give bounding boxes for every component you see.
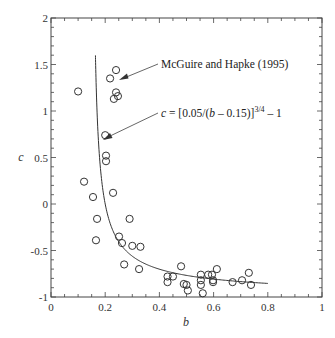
y-tick-label: -0.5 (31, 245, 49, 257)
data-point (121, 261, 128, 268)
formula-exponent: 3/4 (254, 105, 264, 114)
fit-curve (95, 55, 267, 283)
data-point (80, 178, 87, 185)
y-tick-label: 0 (43, 198, 49, 210)
data-point (197, 281, 204, 288)
data-point (129, 242, 136, 249)
arrowhead-mcguire (119, 74, 129, 81)
x-tick-label: 0.4 (153, 301, 167, 313)
data-point (164, 279, 171, 286)
x-tick-labels: 00.20.40.60.81 (48, 301, 325, 313)
y-tick-label: 1.5 (34, 59, 48, 71)
x-tick-label: 1 (319, 301, 325, 313)
data-point (245, 269, 252, 276)
arrowhead-formula (103, 133, 113, 140)
data-point (177, 263, 184, 270)
x-tick-label: 0.2 (98, 301, 112, 313)
x-axis-label: b (183, 315, 189, 329)
data-point (229, 279, 236, 286)
data-point (169, 273, 176, 280)
annotation-mcguire-label: McGuire and Hapke (1995) (161, 58, 289, 71)
data-point (135, 266, 142, 273)
data-point (89, 193, 96, 200)
x-tick-label: 0.8 (261, 301, 275, 313)
annotation-arrow-mcguire (124, 64, 158, 78)
y-tick-label: 0.5 (34, 152, 48, 164)
x-tick-label: 0 (48, 301, 54, 313)
formula-part3: – 1 (265, 107, 283, 119)
data-point (109, 189, 116, 196)
data-point (213, 266, 220, 273)
y-tick-labels: -1-0.500.511.52 (31, 12, 49, 303)
annotation-arrow-formula (108, 113, 158, 137)
data-point (126, 215, 133, 222)
data-point (112, 66, 119, 73)
y-tick-label: 2 (43, 12, 49, 24)
x-tick-label: 0.6 (207, 301, 221, 313)
data-point (102, 158, 109, 165)
annotation-formula-label: c = [0.05/(b – 0.15)]3/4 – 1 (161, 105, 282, 120)
data-point (199, 290, 206, 297)
data-point (137, 243, 144, 250)
data-point (93, 215, 100, 222)
data-point (92, 237, 99, 244)
data-point (75, 88, 82, 95)
y-tick-label: -1 (39, 291, 48, 303)
y-axis-label: c (18, 150, 24, 164)
scatter-chart: 00.20.40.60.81 -1-0.500.511.52 b c McGui… (0, 0, 335, 338)
y-tick-label: 1 (43, 105, 49, 117)
formula-part2: – 0.15)] (215, 107, 254, 120)
formula-part1: = [0.05/( (166, 107, 209, 120)
data-point (106, 75, 113, 82)
data-point (238, 277, 245, 284)
